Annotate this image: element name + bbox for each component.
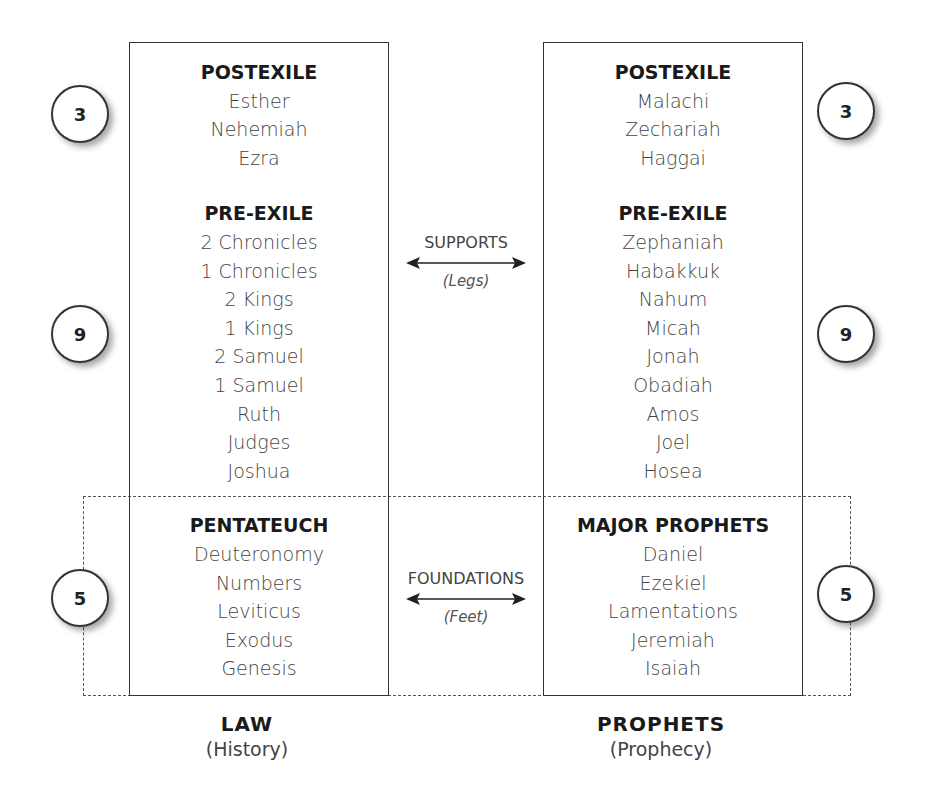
count-badge-pentateuch-left: 5 — [51, 569, 109, 627]
list-item: 1 Samuel — [129, 371, 389, 400]
list-item: Leviticus — [129, 597, 389, 626]
count-badge-major-prophets-right: 5 — [817, 565, 875, 623]
section-heading-pentateuch: PENTATEUCH — [129, 511, 389, 540]
supports-sublabel: (Legs) — [386, 272, 546, 290]
prophets-column: POSTEXILE Malachi Zechariah Haggai PRE-E… — [543, 58, 803, 683]
list-item: Zechariah — [543, 115, 803, 144]
list-item: Ezekiel — [543, 569, 803, 598]
list-item: Genesis — [129, 654, 389, 683]
list-item: Zephaniah — [543, 228, 803, 257]
list-item: Exodus — [129, 626, 389, 655]
list-item: Numbers — [129, 569, 389, 598]
list-item: Jonah — [543, 342, 803, 371]
list-item: Ruth — [129, 400, 389, 429]
section-heading-major-prophets: MAJOR PROPHETS — [543, 511, 803, 540]
list-item: 2 Kings — [129, 285, 389, 314]
list-item: Jeremiah — [543, 626, 803, 655]
count-badge-pre-exile-right: 9 — [817, 305, 875, 363]
list-item: Amos — [543, 400, 803, 429]
supports-connector: SUPPORTS (Legs) — [386, 233, 546, 290]
section-heading-pre-exile: PRE-EXILE — [129, 199, 389, 228]
section-heading-postexile: POSTEXILE — [543, 58, 803, 87]
list-item: Joel — [543, 428, 803, 457]
list-item: Lamentations — [543, 597, 803, 626]
list-item: 1 Chronicles — [129, 257, 389, 286]
list-item: Haggai — [543, 144, 803, 173]
law-title: LAW — [117, 712, 377, 736]
section-heading-postexile: POSTEXILE — [129, 58, 389, 87]
list-item: Judges — [129, 428, 389, 457]
count-badge-postexile-left: 3 — [51, 85, 109, 143]
section-heading-pre-exile: PRE-EXILE — [543, 199, 803, 228]
law-column: POSTEXILE Esther Nehemiah Ezra PRE-EXILE… — [129, 58, 389, 683]
list-item: Nahum — [543, 285, 803, 314]
foundations-label: FOUNDATIONS — [386, 569, 546, 588]
list-item: Malachi — [543, 87, 803, 116]
list-item: 2 Samuel — [129, 342, 389, 371]
list-item: Hosea — [543, 457, 803, 486]
supports-label: SUPPORTS — [386, 233, 546, 252]
list-item: Joshua — [129, 457, 389, 486]
list-item: Isaiah — [543, 654, 803, 683]
list-item: Habakkuk — [543, 257, 803, 286]
prophets-title: PROPHETS — [531, 712, 791, 736]
count-badge-pre-exile-left: 9 — [51, 305, 109, 363]
double-arrow-icon — [406, 256, 526, 270]
list-item: Esther — [129, 87, 389, 116]
list-item: Daniel — [543, 540, 803, 569]
list-item: Ezra — [129, 144, 389, 173]
count-badge-postexile-right: 3 — [817, 82, 875, 140]
list-item: 1 Kings — [129, 314, 389, 343]
law-footer: LAW (History) — [117, 712, 377, 760]
prophets-subtitle: (Prophecy) — [531, 738, 791, 760]
prophets-footer: PROPHETS (Prophecy) — [531, 712, 791, 760]
list-item: Deuteronomy — [129, 540, 389, 569]
list-item: 2 Chronicles — [129, 228, 389, 257]
list-item: Nehemiah — [129, 115, 389, 144]
law-subtitle: (History) — [117, 738, 377, 760]
foundations-sublabel: (Feet) — [386, 608, 546, 626]
double-arrow-icon — [406, 592, 526, 606]
list-item: Micah — [543, 314, 803, 343]
foundations-connector: FOUNDATIONS (Feet) — [386, 569, 546, 626]
list-item: Obadiah — [543, 371, 803, 400]
